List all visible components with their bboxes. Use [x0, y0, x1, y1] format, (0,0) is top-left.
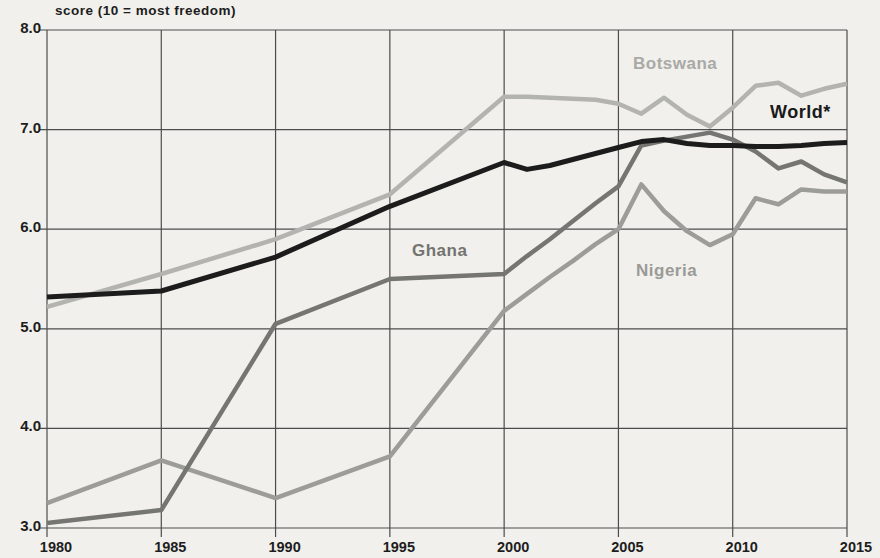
- y-tick-label-5.0: 5.0: [20, 318, 41, 335]
- x-tick-label-2015: 2015: [840, 539, 872, 555]
- y-tick-label-4.0: 4.0: [20, 417, 41, 434]
- y-tick-label-8.0: 8.0: [20, 19, 41, 36]
- y-tick-label-6.0: 6.0: [20, 218, 41, 235]
- x-tick-label-1980: 1980: [40, 539, 72, 555]
- line-chart-canvas: 8.07.06.05.04.03.01980198519901995200020…: [0, 0, 880, 558]
- economic-freedom-chart: score (10 = most freedom) 8.07.06.05.04.…: [0, 0, 880, 558]
- series-label-ghana: Ghana: [412, 241, 467, 261]
- y-tick-label-3.0: 3.0: [20, 517, 41, 534]
- y-tick-label-7.0: 7.0: [20, 119, 41, 136]
- x-tick-label-1995: 1995: [383, 539, 415, 555]
- x-tick-label-2000: 2000: [497, 539, 529, 555]
- x-tick-label-1985: 1985: [154, 539, 186, 555]
- series-label-world: World*: [770, 102, 831, 123]
- series-label-botswana: Botswana: [633, 54, 717, 74]
- x-tick-label-2010: 2010: [726, 539, 758, 555]
- series-line-nigeria: [47, 184, 847, 503]
- series-label-nigeria: Nigeria: [636, 261, 697, 281]
- x-tick-label-2005: 2005: [611, 539, 643, 555]
- x-tick-label-1990: 1990: [268, 539, 300, 555]
- series-line-botswana: [47, 83, 847, 307]
